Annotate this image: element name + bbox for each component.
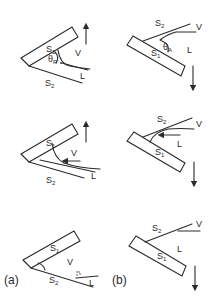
label-liquid: L xyxy=(91,171,96,181)
panel-b-row-2: S1 S2 V L xyxy=(127,114,202,184)
contact-point xyxy=(60,62,62,64)
panel-b-row-1: S1 S2 V L θA xyxy=(127,18,202,88)
label-s2: S2 xyxy=(45,78,55,89)
label-liquid: L xyxy=(187,45,192,55)
meniscus-lower xyxy=(62,63,88,70)
label-s2: S2 xyxy=(157,114,167,125)
label-liquid: L xyxy=(177,139,182,149)
label-theta-r: θR xyxy=(48,54,58,65)
label-s2: S2 xyxy=(46,175,56,186)
label-theta-a: θA xyxy=(163,42,172,53)
label-vapor: V xyxy=(75,48,81,58)
panel-label-a: (a) xyxy=(4,273,19,287)
label-s1: S1 xyxy=(151,48,161,59)
droplet-dots xyxy=(76,271,80,275)
label-s2: S2 xyxy=(152,223,162,234)
label-liquid: L xyxy=(89,278,94,288)
label-liquid: L xyxy=(80,71,85,81)
label-vapor: V xyxy=(196,119,202,129)
panel-a-row-3: S1 S2 V L (a) xyxy=(4,231,98,288)
panel-a-row-1: S1 S2 V L θR xyxy=(21,26,90,89)
label-s2: S2 xyxy=(155,18,165,29)
panel-label-b: (b) xyxy=(112,273,127,287)
liquid-edge xyxy=(76,276,98,278)
surface-s2 xyxy=(29,162,84,178)
surface-s2 xyxy=(143,118,192,137)
label-s1: S1 xyxy=(157,251,167,262)
label-vapor: V xyxy=(67,257,73,267)
label-vapor: V xyxy=(196,219,202,229)
wetting-diagram: S1 S2 V L θR S1 S2 V L S1 S2 V L (a) xyxy=(0,0,214,306)
label-s1: S1 xyxy=(155,147,165,158)
label-vapor: V xyxy=(71,148,77,158)
panel-a-row-2: S1 S2 V L xyxy=(21,124,100,186)
label-liquid: L xyxy=(177,244,182,254)
label-vapor: V xyxy=(196,22,202,32)
contact-point xyxy=(160,39,162,41)
panel-b-row-3: S1 S2 V L (b) xyxy=(112,219,202,288)
surface-s2 xyxy=(29,66,82,83)
meniscus-lower xyxy=(40,160,95,172)
